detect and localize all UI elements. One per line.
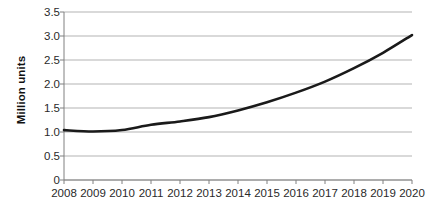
x-axis-tick-label: 2018	[341, 186, 367, 200]
y-axis-tick-label: 1.5	[30, 102, 60, 114]
y-axis-tick-label: 2.5	[30, 54, 60, 66]
x-axis-tick-label: 2016	[283, 186, 309, 200]
y-axis-title: Million units	[10, 0, 32, 180]
y-axis-tick-label: 2.0	[30, 78, 60, 90]
x-axis-tick-label: 2008	[51, 186, 77, 200]
y-axis-ticks	[60, 12, 64, 180]
x-axis-tick-label: 2010	[109, 186, 135, 200]
x-axis-tick-label: 2020	[399, 186, 425, 200]
y-axis-tick-labels: 00.51.01.52.02.53.03.5	[30, 0, 60, 186]
plot-area	[64, 12, 412, 180]
y-axis-tick-label: 0	[30, 174, 60, 186]
x-axis-tick-label: 2015	[254, 186, 280, 200]
x-axis-tick-label: 2014	[225, 186, 251, 200]
plot-svg	[64, 12, 412, 180]
y-axis-tick-label: 1.0	[30, 126, 60, 138]
x-axis-ticks	[64, 180, 412, 184]
x-axis-tick-label: 2012	[167, 186, 193, 200]
x-axis-tick-label: 2011	[139, 186, 164, 200]
x-axis-tick-label: 2013	[196, 186, 222, 200]
y-axis-tick-label: 3.5	[30, 6, 60, 18]
line-chart: Million units 00.51.01.52.02.53.03.5 200…	[0, 0, 430, 210]
y-axis-title-label: Million units	[15, 56, 27, 124]
x-axis-tick-label: 2019	[370, 186, 396, 200]
x-axis-tick-label: 2009	[80, 186, 106, 200]
data-series-line	[64, 35, 412, 131]
y-axis-tick-label: 0.5	[30, 150, 60, 162]
gridlines	[64, 12, 412, 180]
x-axis-tick-labels: 2008200920102011201220132014201520162017…	[64, 186, 412, 206]
y-axis-tick-label: 3.0	[30, 30, 60, 42]
x-axis-tick-label: 2017	[312, 186, 338, 200]
